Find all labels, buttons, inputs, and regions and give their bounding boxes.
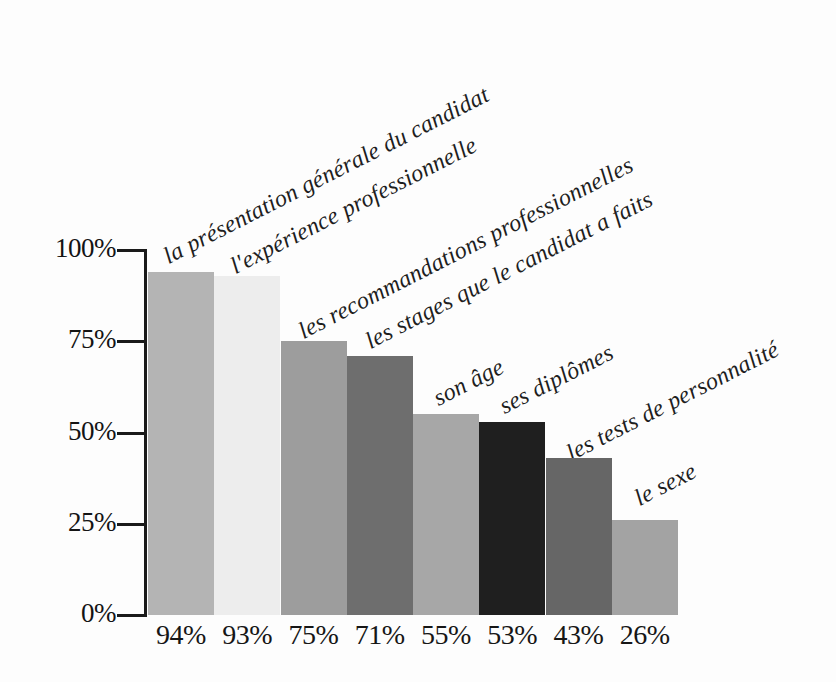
y-axis-tick-label: 0%: [30, 600, 116, 627]
y-axis-tick: [117, 432, 145, 435]
bar-value-label: 75%: [281, 620, 347, 651]
category-label: la présentation générale du candidat: [159, 81, 494, 269]
chart-page: la présentation générale du candidatl'ex…: [0, 0, 836, 682]
plot-area: [148, 250, 678, 615]
bar[interactable]: [347, 356, 413, 615]
y-axis-tick-label: 50%: [30, 418, 116, 445]
bar-value-label: 55%: [413, 620, 479, 651]
bar-value-label: 43%: [546, 620, 612, 651]
bar[interactable]: [148, 272, 214, 615]
bar[interactable]: [546, 458, 612, 615]
page-bleed-artifact: [95, 655, 425, 675]
bar-value-label: 53%: [479, 620, 545, 651]
bar-value-label: 71%: [347, 620, 413, 651]
y-axis-tick: [117, 249, 145, 252]
y-tick-label-group: 0%25%50%75%100%: [20, 0, 116, 682]
bar-value-label: 93%: [214, 620, 280, 651]
bar-value-label: 94%: [148, 620, 214, 651]
y-axis-tick: [117, 614, 145, 617]
bar[interactable]: [214, 276, 280, 615]
y-axis-tick-label: 25%: [30, 509, 116, 536]
y-axis-tick-label: 75%: [30, 326, 116, 353]
bar[interactable]: [413, 414, 479, 615]
bar-value-label: 26%: [612, 620, 678, 651]
y-axis-tick: [117, 523, 145, 526]
y-axis-tick: [117, 340, 145, 343]
bar[interactable]: [479, 422, 545, 615]
bar[interactable]: [281, 341, 347, 615]
y-axis-tick-label: 100%: [30, 235, 116, 262]
bar[interactable]: [612, 520, 678, 615]
